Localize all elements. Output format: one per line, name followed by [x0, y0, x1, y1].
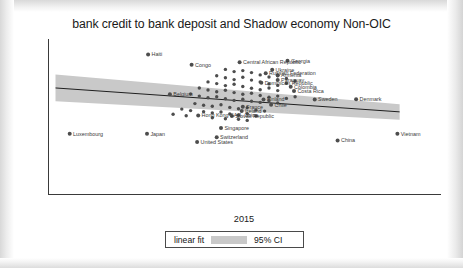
svg-text:Costa Rica: Costa Rica	[297, 88, 323, 94]
svg-text:China: China	[341, 137, 355, 143]
y-tick	[48, 133, 49, 134]
svg-text:Sweden: Sweden	[318, 96, 337, 102]
x-axis-label: 2015	[48, 214, 440, 224]
legend-ci-label: 95% CI	[254, 235, 282, 245]
svg-text:Russian Federation: Russian Federation	[269, 70, 316, 76]
x-tick	[103, 194, 104, 195]
x-tick	[321, 194, 322, 195]
svg-text:Belgium: Belgium	[173, 91, 193, 97]
chart-figure: bank credit to bank deposit and Shadow e…	[0, 0, 463, 268]
svg-text:Slovak Republic: Slovak Republic	[235, 113, 274, 119]
plot-area: HaitiCongoCentral African RepublicGeorgi…	[48, 39, 441, 195]
svg-text:Singapore: Singapore	[224, 125, 249, 131]
scan-edge-shading-left	[0, 0, 14, 268]
y-tick	[48, 191, 49, 192]
svg-text:Congo: Congo	[195, 62, 211, 68]
svg-text:Japan: Japan	[150, 131, 165, 137]
y-tick	[48, 104, 49, 105]
svg-text:Georgia: Georgia	[291, 58, 310, 64]
svg-text:Denmark: Denmark	[360, 96, 382, 102]
y-tick	[48, 162, 49, 163]
y-tick	[48, 75, 49, 76]
scan-edge-shading-top	[0, 0, 463, 12]
svg-text:Luxembourg: Luxembourg	[73, 131, 103, 137]
svg-text:United States: United States	[201, 139, 234, 145]
svg-text:Haiti: Haiti	[152, 51, 163, 57]
y-tick	[48, 46, 49, 47]
scatter-canvas: HaitiCongoCentral African RepublicGeorgi…	[49, 39, 441, 194]
scan-edge-shading-bottom	[0, 258, 463, 268]
x-tick	[212, 194, 213, 195]
legend-ci-swatch	[211, 236, 247, 244]
scan-edge-shading-right	[447, 0, 463, 268]
legend-linear-fit-label: linear fit	[174, 235, 204, 245]
chart-title: bank credit to bank deposit and Shadow e…	[0, 17, 463, 31]
chart-legend: linear fit 95% CI	[165, 231, 304, 248]
svg-text:Chile: Chile	[275, 102, 287, 108]
svg-text:Vietnam: Vietnam	[401, 131, 421, 137]
x-tick	[430, 194, 431, 195]
